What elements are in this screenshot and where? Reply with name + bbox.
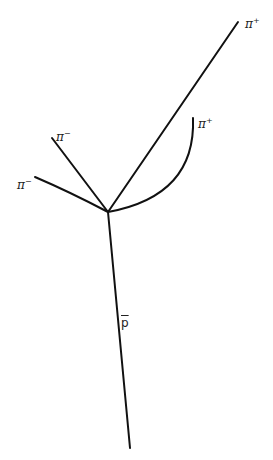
label-base: π xyxy=(17,178,25,192)
track-pi-plus-long xyxy=(108,22,238,212)
label-pi-plus-long: π+ xyxy=(245,17,260,30)
label-charge: − xyxy=(25,177,32,186)
track-pi-minus-upper xyxy=(52,138,108,212)
track-antiproton xyxy=(108,212,130,448)
label-pi-minus-upper: π− xyxy=(56,130,71,143)
decay-diagram xyxy=(0,0,273,460)
label-base: π xyxy=(198,117,206,131)
label-base: p xyxy=(121,316,129,330)
track-pi-plus-curved xyxy=(108,118,193,212)
track-pi-minus-lower xyxy=(35,177,108,212)
label-antiproton: p xyxy=(121,317,129,329)
label-pi-minus-lower: π− xyxy=(17,178,32,191)
label-charge: − xyxy=(64,129,71,138)
label-charge: + xyxy=(253,16,260,25)
label-base: π xyxy=(245,17,253,31)
label-pi-plus-curved: π+ xyxy=(198,117,213,130)
label-charge: + xyxy=(206,116,213,125)
label-base: π xyxy=(56,130,64,144)
